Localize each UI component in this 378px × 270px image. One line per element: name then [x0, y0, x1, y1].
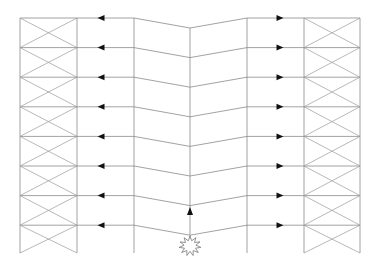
arrow-left-icon: [98, 74, 105, 80]
floor-chevron-right: [190, 48, 247, 58]
arrow-left-icon: [98, 15, 105, 21]
arrow-right-icon: [277, 133, 284, 139]
force-arrows: [98, 15, 284, 228]
arrow-up-icon: [187, 207, 193, 215]
floor-chevron-right: [190, 77, 247, 87]
arrow-right-icon: [277, 74, 284, 80]
floor-chevron-right: [190, 18, 247, 28]
explosion-icon: [179, 236, 201, 255]
arrow-left-icon: [98, 45, 105, 51]
arrow-right-icon: [277, 45, 284, 51]
floor-chevron-left: [134, 18, 190, 28]
floor-chevron-right: [190, 196, 247, 206]
arrow-right-icon: [277, 222, 284, 228]
floor-chevron-right: [190, 166, 247, 176]
arrow-left-icon: [98, 193, 105, 199]
arrow-left-icon: [98, 133, 105, 139]
floor-chevron-left: [134, 107, 190, 117]
structural-frame-diagram: [0, 0, 378, 270]
floor-chevron-right: [190, 107, 247, 117]
arrow-right-icon: [277, 104, 284, 110]
arrow-right-icon: [277, 163, 284, 169]
arrow-right-icon: [277, 193, 284, 199]
floor-chevron-left: [134, 48, 190, 58]
arrow-right-icon: [277, 15, 284, 21]
floor-chevron-right: [190, 136, 247, 146]
frame-lines: [20, 18, 360, 253]
arrow-left-icon: [98, 222, 105, 228]
floor-chevron-right: [190, 225, 247, 235]
arrow-left-icon: [98, 163, 105, 169]
floor-chevron-left: [134, 136, 190, 146]
floor-chevron-left: [134, 77, 190, 87]
floor-chevron-left: [134, 166, 190, 176]
floor-chevron-left: [134, 196, 190, 206]
floor-chevron-left: [134, 225, 190, 235]
arrow-left-icon: [98, 104, 105, 110]
explosion-origin: [179, 236, 201, 255]
